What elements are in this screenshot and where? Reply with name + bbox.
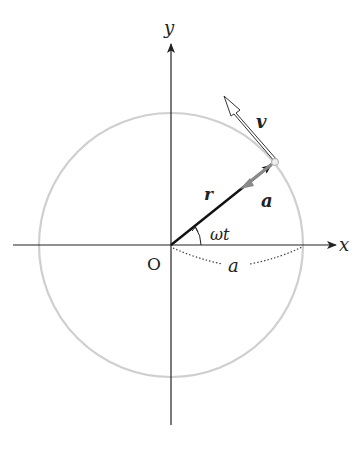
circular-motion-diagram: y x O r v a ωt a [0,0,355,468]
velocity-vector-label: v [256,111,267,132]
radius-dotted-arc-left [173,248,222,264]
acceleration-vector-label: a [261,190,273,211]
origin-label: O [147,254,161,274]
x-axis-label: x [339,234,349,255]
particle-point [272,159,279,166]
angle-label: ωt [210,225,230,244]
y-axis-label: y [163,17,175,38]
radius-dotted-arc-right [250,247,302,264]
radius-vector-label: r [204,184,214,204]
radius-length-label: a [228,255,239,276]
angle-arc [196,228,202,246]
